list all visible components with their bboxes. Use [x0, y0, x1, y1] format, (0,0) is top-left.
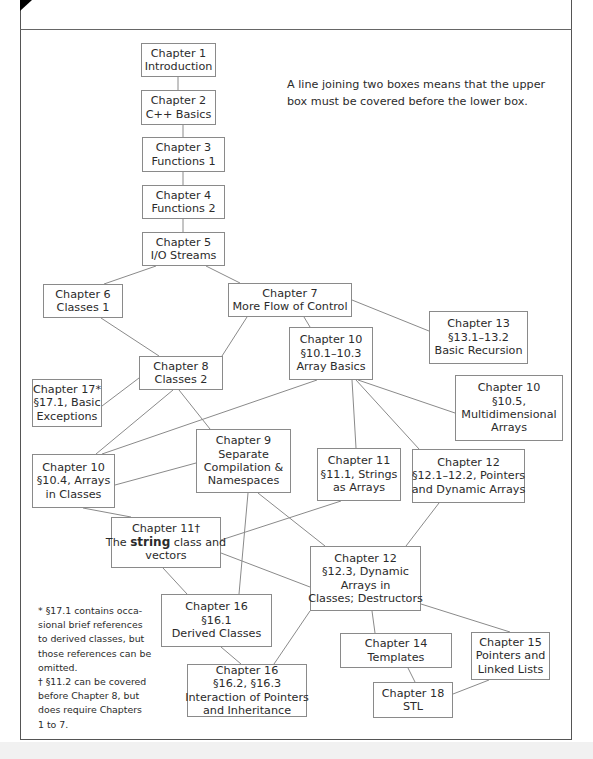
node-chapter-3: Chapter 3 Functions 1 [142, 137, 225, 172]
node-chapter-7: Chapter 7 More Flow of Control [228, 283, 352, 317]
node-chapter-5: Chapter 5 I/O Streams [142, 232, 225, 266]
footnote-line: those references can be [38, 647, 148, 661]
node-subtitle: More Flow of Control [232, 300, 347, 313]
node-section: §17.1, Basic [33, 396, 100, 409]
edge-ch5-ch7 [206, 266, 240, 283]
edge-ch12b-ch16b [274, 611, 310, 664]
node-chapter-10-array-basics: Chapter 10 §10.1–10.3 Array Basics [289, 327, 373, 380]
node-section: §12.1–12.2, Pointers [412, 469, 525, 482]
node-subtitle: C++ Basics [146, 108, 212, 121]
node-title: Chapter 12 [334, 552, 397, 565]
node-chapter-11-string-class: Chapter 11† The string class and vectors [111, 517, 221, 568]
node-chapter-18: Chapter 18 STL [373, 682, 453, 718]
node-title: Chapter 2 [151, 94, 206, 107]
node-title: Chapter 9 [216, 434, 271, 447]
node-title: Chapter 16 [185, 600, 248, 613]
node-subtitle: Basic Recursion [434, 344, 522, 357]
node-title: Chapter 13 [447, 317, 510, 330]
footnote-line: * §17.1 contains occa- [38, 604, 148, 618]
edge-ch12b-ch14 [372, 611, 375, 633]
node-subtitle: The string class and [106, 536, 226, 549]
node-title: Chapter 12 [437, 456, 500, 469]
edge-ch9-ch16a [239, 493, 248, 594]
node-subtitle: Linked Lists [478, 663, 543, 676]
edge-ch10b-ch11b [83, 508, 131, 517]
word-class-and: class and [174, 536, 226, 549]
node-subtitle: and Dynamic Arrays [412, 483, 525, 496]
edge-ch6-ch8 [101, 318, 159, 356]
footnote-line: does require Chapters [38, 703, 148, 717]
node-chapter-11-strings-as-arrays: Chapter 11 §11.1, Strings as Arrays [317, 448, 401, 501]
node-chapter-13: Chapter 13 §13.1–13.2 Basic Recursion [429, 311, 528, 364]
edge-ch12b-ch15 [421, 604, 510, 632]
node-title: Chapter 11 [328, 454, 391, 467]
node-title: Chapter 10 [300, 333, 363, 346]
node-subtitle: Classes 1 [57, 301, 110, 314]
node-title: Chapter 14 [365, 637, 428, 650]
legend-line-1: A line joining two boxes means that the … [287, 78, 545, 91]
node-subtitle: Namespaces [208, 474, 280, 487]
node-subtitle: I/O Streams [151, 249, 217, 262]
footnote-line: before Chapter 8, but [38, 689, 148, 703]
node-chapter-10-multidimensional: Chapter 10 §10.5, Multidimensional Array… [455, 375, 563, 441]
node-title: Chapter 8 [153, 360, 208, 373]
node-chapter-12-pointers: Chapter 12 §12.1–12.2, Pointers and Dyna… [412, 449, 525, 503]
node-chapter-9: Chapter 9 Separate Compilation & Namespa… [196, 429, 291, 493]
node-title: Chapter 6 [55, 288, 110, 301]
node-section: §10.4, Arrays [37, 474, 111, 487]
node-chapter-12-dynamic-arrays-in-classes: Chapter 12 §12.3, Dynamic Arrays in Clas… [310, 546, 421, 611]
node-title: Chapter 11† [132, 522, 200, 535]
edge-ch7-ch8 [222, 317, 247, 356]
node-title: Chapter 17* [33, 383, 101, 396]
node-subtitle: Arrays [491, 421, 527, 434]
node-chapter-17: Chapter 17* §17.1, Basic Exceptions [32, 379, 102, 427]
node-chapter-4: Chapter 4 Functions 2 [142, 185, 225, 219]
node-subtitle: Classes; Destructors [308, 592, 423, 605]
node-subtitle: in Classes [46, 488, 102, 501]
node-subtitle: Derived Classes [172, 627, 262, 640]
footnote-line: sional brief references [38, 618, 148, 632]
footnote-line: omitted. [38, 661, 148, 675]
legend-line-2: box must be covered before the lower box… [287, 95, 528, 108]
node-chapter-1: Chapter 1 Introduction [141, 43, 216, 77]
node-subtitle: Introduction [145, 60, 213, 73]
legend-text: A line joining two boxes means that the … [287, 76, 547, 110]
edge-ch9-ch10b [115, 463, 196, 485]
edge-ch8-ch17 [102, 378, 139, 406]
node-subtitle: Compilation & [204, 461, 283, 474]
node-chapter-16-pointers-inheritance: Chapter 16 §16.2, §16.3 Interaction of P… [187, 664, 307, 717]
node-chapter-14: Chapter 14 Templates [340, 633, 452, 668]
node-section: §10.1–10.3 [300, 347, 361, 360]
node-title: Chapter 7 [262, 287, 317, 300]
node-subtitle: as Arrays [333, 481, 385, 494]
node-chapter-15: Chapter 15 Pointers and Linked Lists [471, 632, 550, 680]
edge-ch5-ch6 [104, 266, 156, 284]
edge-ch11b-ch16a [163, 568, 187, 594]
edge-ch15-ch18 [453, 680, 489, 694]
word-the: The [106, 536, 127, 549]
node-chapter-16-derived-classes: Chapter 16 §16.1 Derived Classes [161, 594, 272, 647]
node-chapter-2: Chapter 2 C++ Basics [141, 90, 216, 125]
node-subtitle: Array Basics [296, 360, 365, 373]
edge-ch9-ch12b [258, 493, 325, 546]
edge-ch12a-ch12b [406, 503, 439, 546]
node-title: Chapter 3 [156, 141, 211, 154]
edge-ch8-ch9 [179, 390, 210, 429]
node-subtitle: Separate [218, 448, 269, 461]
node-title: Chapter 16 [216, 664, 279, 677]
edge-ch8-ch10b [96, 390, 173, 454]
footnote-line: † §11.2 can be covered [38, 675, 148, 689]
node-title: Chapter 18 [382, 687, 445, 700]
node-subtitle: Pointers and [476, 649, 546, 662]
footnote-line: to derived classes, but [38, 632, 148, 646]
edge-ch7-ch10a [304, 317, 310, 327]
node-subtitle: Functions 2 [151, 202, 215, 215]
node-title: Chapter 10 [478, 381, 541, 394]
edge-ch11b-ch12b [221, 553, 310, 587]
node-subtitle: and Inheritance [203, 704, 291, 717]
edge-ch14-ch18 [408, 668, 415, 682]
node-title: Chapter 10 [42, 461, 105, 474]
node-chapter-8: Chapter 8 Classes 2 [139, 356, 223, 390]
footnotes: * §17.1 contains occa- sional brief refe… [38, 604, 148, 732]
node-title: Chapter 5 [156, 236, 211, 249]
